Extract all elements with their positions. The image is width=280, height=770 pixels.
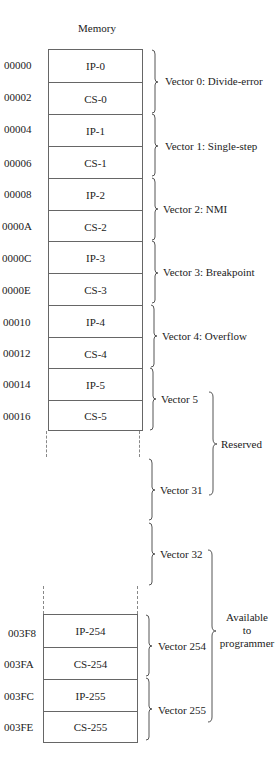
brace-icon (152, 178, 158, 240)
brace-icon (152, 50, 158, 113)
vector-label: Vector 2: NMI (163, 203, 227, 215)
vector-label: Vector 1: Single-step (165, 140, 257, 152)
brace-icon (209, 392, 217, 495)
brace-icon (149, 459, 155, 520)
brace-icon (152, 241, 158, 303)
vector-label: Vector 255 (158, 704, 206, 716)
vector-label: Vector 3: Breakpoint (163, 266, 255, 278)
vector-label: Vector 4: Overflow (162, 330, 247, 342)
available-line: Available (214, 611, 280, 624)
brace-icon (151, 305, 157, 367)
available-line: to (214, 624, 280, 637)
braces-layer (0, 0, 280, 770)
vector-label: Vector 31 (160, 484, 202, 496)
vector-label: Vector 0: Divide-error (165, 75, 263, 87)
reserved-label: Reserved (221, 438, 262, 450)
vector-label: Vector 254 (158, 640, 206, 652)
brace-icon (152, 114, 158, 176)
brace-icon (146, 615, 152, 676)
available-label: Available to programmer (214, 611, 280, 650)
brace-icon (149, 523, 155, 585)
brace-icon (146, 678, 152, 740)
vector-label: Vector 5 (161, 393, 198, 405)
vector-label: Vector 32 (160, 548, 202, 560)
available-line: programmer (214, 637, 280, 650)
brace-icon (150, 368, 156, 430)
